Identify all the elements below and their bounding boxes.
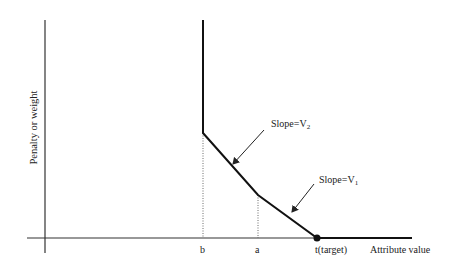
tick-label-target: t(target) [315, 244, 347, 255]
tick-label-b: b [200, 244, 205, 255]
slope-v1-arrow [292, 184, 314, 212]
penalty-diagram [0, 0, 455, 270]
slope-v2-arrow [233, 130, 264, 164]
slope-v1-label: Slope=V1 [319, 174, 358, 187]
x-axis-label: Attribute value [370, 244, 430, 255]
slope-v2-label: Slope=V2 [271, 118, 310, 131]
target-point [314, 235, 321, 242]
y-axis-label: Penalty or weight [28, 73, 39, 183]
tick-label-a: a [255, 244, 259, 255]
